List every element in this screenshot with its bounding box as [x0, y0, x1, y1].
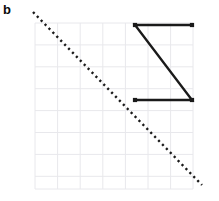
figure-panel: b — [0, 0, 219, 201]
data-point-marker-2 — [190, 98, 194, 102]
grid-lines — [35, 23, 193, 189]
plot-area — [0, 0, 219, 201]
series-dotted-diagonal — [33, 12, 202, 185]
data-point-marker-3 — [133, 98, 137, 102]
data-point-marker-1 — [133, 23, 137, 27]
series-line-dotted-diagonal — [33, 12, 202, 185]
data-point-marker-0 — [190, 23, 194, 27]
series-z-polyline — [133, 23, 194, 102]
data-series-layer — [33, 12, 202, 185]
